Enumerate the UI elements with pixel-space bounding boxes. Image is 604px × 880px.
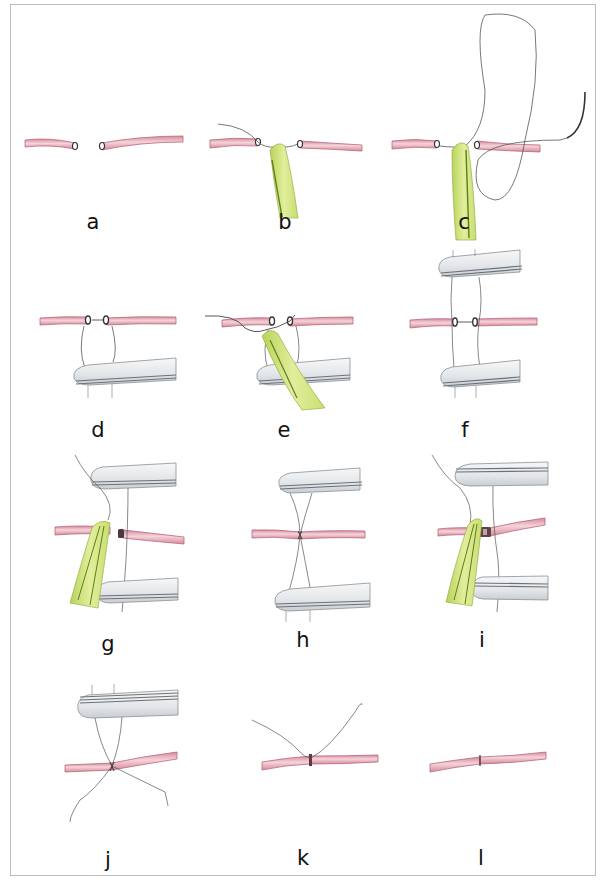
panel-label-a: a — [78, 210, 108, 234]
vessel — [222, 318, 272, 327]
panel-a — [25, 136, 183, 150]
clamp — [472, 576, 548, 600]
vessel — [490, 518, 545, 536]
vessel — [477, 141, 540, 152]
vessel — [310, 755, 378, 764]
panel-label-e: e — [269, 418, 299, 442]
vessel-end — [73, 143, 78, 150]
vessel — [262, 756, 310, 770]
vessel — [40, 317, 88, 325]
panel-label-l: l — [466, 846, 496, 870]
panel-label-k: k — [288, 846, 318, 870]
panel-f — [410, 249, 537, 398]
vessel — [300, 531, 365, 539]
vessel — [102, 136, 183, 150]
panel-label-j: j — [93, 848, 123, 872]
panel-label-h: h — [288, 628, 318, 652]
vessel — [106, 317, 176, 325]
vessel — [210, 138, 258, 148]
forceps — [270, 144, 298, 218]
vessel-end — [100, 143, 105, 150]
suture-thread — [252, 704, 362, 758]
vessel — [430, 757, 480, 772]
panel-b — [210, 124, 362, 218]
panel-i — [432, 455, 548, 612]
vessel — [392, 140, 437, 150]
panel-d — [40, 316, 176, 398]
clamp — [279, 468, 360, 493]
needle — [567, 92, 585, 138]
panel-l — [430, 752, 546, 772]
vessel — [300, 141, 362, 151]
suture-thread — [81, 326, 115, 368]
vessel — [65, 763, 112, 772]
panel-e — [205, 315, 353, 410]
panel-j — [65, 684, 178, 822]
panel-g — [55, 455, 184, 612]
panel-label-g: g — [93, 632, 123, 656]
vessel — [410, 319, 455, 328]
vessel — [123, 530, 184, 544]
clamp — [455, 462, 548, 486]
panel-label-c: c — [449, 210, 479, 234]
panel-h — [252, 468, 370, 622]
vessel — [475, 318, 537, 326]
vessel — [252, 530, 300, 539]
vessel — [25, 139, 75, 149]
panel-label-f: f — [450, 418, 480, 442]
vessel — [290, 317, 353, 326]
vessel — [480, 752, 546, 764]
suture-thread — [288, 493, 312, 598]
panel-c — [392, 14, 585, 240]
panel-k — [252, 704, 378, 770]
panel-label-b: b — [270, 210, 300, 234]
vessel — [112, 752, 177, 770]
panel-label-d: d — [83, 418, 113, 442]
panel-label-i: i — [467, 628, 497, 652]
